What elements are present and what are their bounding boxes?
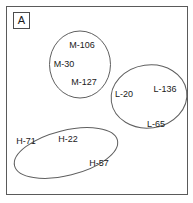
node-label-m-106: M-106 xyxy=(69,41,95,50)
node-label-h-57: H-57 xyxy=(89,159,109,168)
panel-label-box: A xyxy=(13,12,30,29)
node-label-m-127: M-127 xyxy=(71,78,97,87)
node-label-l-136: L-136 xyxy=(153,85,176,94)
panel-label: A xyxy=(18,15,25,26)
node-label-h-22: H-22 xyxy=(58,135,78,144)
node-label-h-71: H-71 xyxy=(16,137,36,146)
node-label-l-20: L-20 xyxy=(115,90,133,99)
node-label-m-30: M-30 xyxy=(54,60,75,69)
node-label-l-65: L-65 xyxy=(147,120,165,129)
figure-panel: A M-106 M-30 M-127 L-20 L-136 L-65 H-71 … xyxy=(0,0,193,203)
